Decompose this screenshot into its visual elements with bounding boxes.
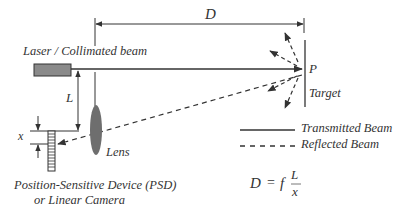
- psd-label-line1: Position-Sensitive Device (PSD): [14, 178, 176, 193]
- laser-box: [34, 64, 71, 76]
- scatter-ray-2: [270, 51, 297, 66]
- offset-label: x: [18, 129, 23, 144]
- formula-lhs: D: [250, 175, 261, 192]
- formula-numerator: L: [291, 167, 298, 183]
- scatter-ray-1: [285, 33, 298, 62]
- psd-label-line2: or Linear Camera: [34, 193, 125, 208]
- scatter-ray-4: [285, 78, 298, 108]
- baseline-label: L: [66, 90, 73, 106]
- laser-label: Laser / Collimated beam: [23, 44, 147, 59]
- formula-f: f: [280, 175, 284, 192]
- lens-shape: [90, 105, 102, 155]
- legend-reflected-label: Reflected Beam: [301, 137, 379, 152]
- legend-transmitted-label: Transmitted Beam: [301, 121, 392, 136]
- target-label: Target: [309, 86, 341, 101]
- psd-sensor: [48, 131, 55, 171]
- lens-label: Lens: [106, 145, 130, 160]
- formula-denominator: x: [292, 184, 298, 200]
- formula-equals: =: [267, 175, 275, 191]
- point-label: P: [309, 61, 317, 77]
- distance-label: D: [205, 6, 216, 23]
